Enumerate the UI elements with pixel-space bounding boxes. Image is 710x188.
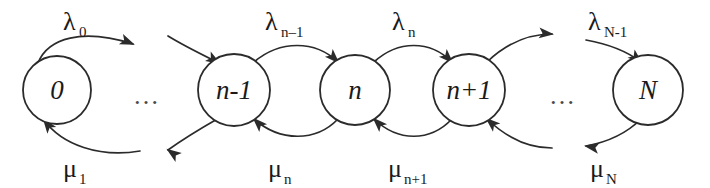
state-label: n-1 xyxy=(216,75,252,105)
state-node-N[interactable]: N xyxy=(613,55,683,125)
rate-subscript: n xyxy=(408,24,416,40)
rate-symbol: μ xyxy=(590,154,604,183)
death-rate-labels-group: μ1μnμn+1μN xyxy=(63,154,617,187)
rate-subscript: N-1 xyxy=(604,24,627,40)
state-node-n-1[interactable]: n-1 xyxy=(198,54,270,126)
rate-symbol: μ xyxy=(268,154,282,183)
state-node-n+1[interactable]: n+1 xyxy=(433,54,505,126)
rate-label-mu-N: μN xyxy=(590,154,617,187)
rate-symbol: λ xyxy=(392,7,405,36)
arrowhead-arc-death-N xyxy=(583,140,600,153)
rate-label-lambda-0: λ0 xyxy=(63,7,87,40)
rate-subscript: 1 xyxy=(79,171,87,187)
rate-label-lambda-n: λn xyxy=(392,7,416,40)
ellipsis-left: … xyxy=(133,81,162,110)
state-label: 0 xyxy=(50,75,64,105)
diagram-canvas: 0n-1nn+1N …… λ0λn–1λnλN-1 μ1μnμn+1μN xyxy=(0,0,710,188)
rate-symbol: μ xyxy=(63,154,77,183)
rate-symbol: λ xyxy=(588,7,601,36)
rate-symbol: λ xyxy=(265,7,278,36)
rate-symbol: λ xyxy=(63,7,76,36)
arrowhead-arc-birth-0 xyxy=(119,34,137,50)
rate-label-mu-n: μn xyxy=(268,154,292,187)
death-arc-arc-death-n xyxy=(254,119,338,136)
state-label: n+1 xyxy=(446,75,491,105)
rate-label-lambda-n-1: λn–1 xyxy=(265,7,304,40)
rate-subscript: n+1 xyxy=(404,171,427,187)
rate-label-lambda-N-1: λN-1 xyxy=(588,7,627,40)
birth-arc-arc-birth-n xyxy=(374,46,452,63)
death-arc-arc-death-n+1 xyxy=(374,119,452,136)
ellipsis-right: … xyxy=(549,81,578,110)
birth-arc-arc-birth-n-1 xyxy=(254,46,338,63)
rate-label-mu-n+1: μn+1 xyxy=(388,154,427,187)
rate-subscript: N xyxy=(606,171,617,187)
death-arc-arc-death-next xyxy=(168,118,219,150)
state-transition-diagram: 0n-1nn+1N …… λ0λn–1λnλN-1 μ1μnμn+1μN xyxy=(0,0,710,188)
rate-symbol: μ xyxy=(388,154,402,183)
state-label: n xyxy=(348,75,362,105)
death-arc-arc-death-1 xyxy=(44,120,140,153)
birth-arc-arc-birth-n+1 xyxy=(487,34,552,62)
rate-subscript: n xyxy=(284,171,292,187)
rate-subscript: n–1 xyxy=(281,24,304,40)
state-node-0[interactable]: 0 xyxy=(23,56,91,124)
rate-subscript: 0 xyxy=(79,24,87,40)
state-nodes-group: 0n-1nn+1N xyxy=(23,54,683,126)
state-label: N xyxy=(638,75,659,105)
arrowhead-arc-birth-n+1 xyxy=(539,27,555,39)
rate-label-mu-1: μ1 xyxy=(63,154,87,187)
death-arc-arc-death-N xyxy=(586,119,641,146)
state-node-n[interactable]: n xyxy=(320,55,390,125)
